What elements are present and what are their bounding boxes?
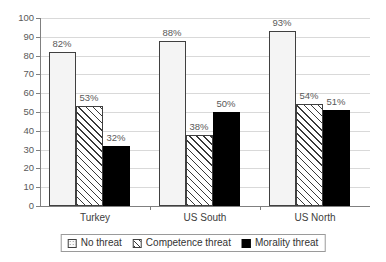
y-axis-tick-mark: [36, 37, 40, 38]
y-axis-tick-mark: [36, 168, 40, 169]
y-axis-tick-mark: [36, 112, 40, 113]
x-axis-tick-mark: [260, 206, 261, 210]
legend-item-no-threat[interactable]: No threat: [68, 237, 122, 249]
y-axis-tick-mark: [36, 18, 40, 19]
bar-turkey-morality-threat: [103, 146, 130, 206]
y-axis-tick-label: 20: [4, 163, 34, 173]
y-axis-tick-mark: [36, 56, 40, 57]
category-label-turkey: Turkey: [40, 212, 150, 224]
legend-label: Competence threat: [146, 237, 231, 249]
y-axis-tick-label: 50: [4, 107, 34, 117]
y-axis-tick-label: 60: [4, 88, 34, 98]
y-axis-tick-mark: [36, 131, 40, 132]
bar-value-label: 88%: [152, 28, 193, 38]
bar-value-label: 50%: [206, 99, 247, 109]
x-axis-tick-mark: [150, 206, 151, 210]
y-axis-tick-label: 30: [4, 145, 34, 155]
bar-value-label: 53%: [69, 93, 110, 103]
bar-turkey-competence-threat: [76, 106, 103, 206]
y-axis-tick-label: 90: [4, 32, 34, 42]
legend-label: Morality threat: [255, 237, 318, 249]
y-axis-tick-label: 80: [4, 51, 34, 61]
chart-legend: No threatCompetence threatMorality threa…: [61, 234, 326, 252]
y-axis-tick-mark: [36, 187, 40, 188]
y-axis-labels: 0102030405060708090100: [0, 18, 34, 206]
y-axis-tick-label: 10: [4, 182, 34, 192]
bar-value-label: 93%: [262, 18, 303, 28]
plot-area: 82%53%32%88%38%50%93%54%51%: [40, 18, 370, 206]
y-axis-tick-label: 100: [4, 13, 34, 23]
bar-series-container: 82%53%32%88%38%50%93%54%51%: [40, 18, 370, 206]
bar-value-label: 51%: [316, 97, 357, 107]
y-axis-tick-mark: [36, 206, 40, 207]
bar-chart: 0102030405060708090100 82%53%32%88%38%50…: [0, 0, 386, 262]
legend-label: No threat: [81, 237, 122, 249]
legend-swatch-icon: [242, 239, 251, 248]
y-axis-tick-label: 40: [4, 126, 34, 136]
legend-item-morality-threat[interactable]: Morality threat: [242, 237, 318, 249]
y-axis-tick-label: 70: [4, 69, 34, 79]
category-label-us-south: US South: [150, 212, 260, 224]
y-axis-tick-mark: [36, 93, 40, 94]
x-axis-category-labels: TurkeyUS SouthUS North: [40, 212, 370, 228]
x-axis-line: [40, 206, 370, 207]
y-axis-tick-label: 0: [4, 201, 34, 211]
bar-value-label: 32%: [96, 133, 137, 143]
bar-us-north-morality-threat: [323, 110, 350, 206]
legend-item-competence-threat[interactable]: Competence threat: [133, 237, 231, 249]
legend-swatch-icon: [133, 239, 142, 248]
bar-turkey-no-threat: [49, 52, 76, 206]
y-axis-tick-mark: [36, 150, 40, 151]
bar-us-north-competence-threat: [296, 104, 323, 206]
bar-value-label: 82%: [42, 39, 83, 49]
bar-us-south-competence-threat: [186, 135, 213, 206]
category-label-us-north: US North: [260, 212, 370, 224]
legend-swatch-icon: [68, 239, 77, 248]
y-axis-tick-mark: [36, 74, 40, 75]
y-axis-line: [40, 18, 41, 206]
bar-us-south-morality-threat: [213, 112, 240, 206]
bar-us-north-no-threat: [269, 31, 296, 206]
